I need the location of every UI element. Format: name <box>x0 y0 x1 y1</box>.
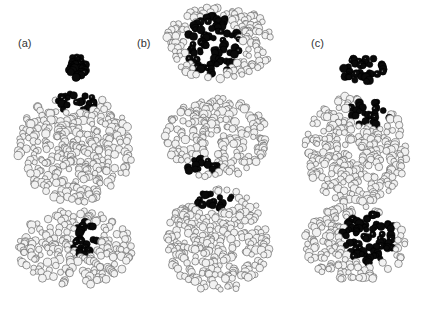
c-ligand-model <box>340 55 388 85</box>
panel-label-c: (c) <box>311 37 324 49</box>
c-protein-top-model <box>302 92 410 206</box>
panel-label-b: (b) <box>137 37 150 49</box>
a-protein-bottom-model <box>15 208 134 288</box>
b-protein-bottom-model <box>164 186 273 292</box>
b-protein-middle-model <box>161 95 269 180</box>
a-protein-top-model <box>14 91 134 205</box>
b-protein-top-model <box>163 4 273 83</box>
molecular-models-canvas <box>0 0 427 312</box>
c-protein-bottom-model <box>302 204 408 283</box>
a-ligand-model <box>65 54 89 82</box>
panel-label-a: (a) <box>18 37 31 49</box>
